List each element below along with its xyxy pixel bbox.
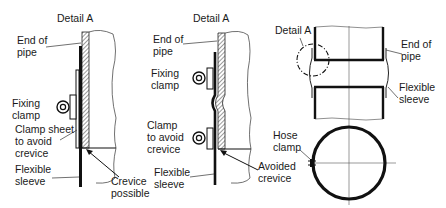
left-detail-panel: Detail A End of pipe Fixing clamp Clamp … <box>12 12 150 199</box>
svg-text:crevice: crevice <box>258 172 291 184</box>
svg-text:Detail A: Detail A <box>275 24 311 36</box>
pipe-wall <box>216 33 226 149</box>
pipe-break-line <box>89 30 116 148</box>
right-overview-panel: Detail A End of pipe Flexible sleeve Hos… <box>273 24 435 205</box>
svg-text:pipe: pipe <box>17 46 37 58</box>
pipe-sleeve-diagram: Detail A End of pipe Fixing clamp Clamp … <box>0 0 446 208</box>
svg-text:Flexible: Flexible <box>399 81 435 93</box>
flexible-sleeve <box>310 48 313 98</box>
svg-text:to avoid: to avoid <box>147 131 184 143</box>
crevice-clamp-body <box>207 128 213 149</box>
hose-clamp-icon <box>310 159 314 167</box>
svg-text:Fixing: Fixing <box>151 67 179 79</box>
svg-text:crevice: crevice <box>147 143 180 155</box>
svg-text:Clamp sheet: Clamp sheet <box>15 123 74 135</box>
svg-text:possible: possible <box>111 187 150 199</box>
svg-text:Avoided: Avoided <box>258 160 296 172</box>
svg-text:pipe: pipe <box>153 45 173 57</box>
svg-text:pipe: pipe <box>401 50 421 62</box>
svg-text:sleeve: sleeve <box>15 175 46 187</box>
svg-text:Hose: Hose <box>273 129 298 141</box>
svg-text:sleeve: sleeve <box>154 178 185 190</box>
svg-text:Flexible: Flexible <box>154 166 190 178</box>
pipe-wall <box>82 32 89 148</box>
middle-detail-title: Detail A <box>193 12 229 24</box>
svg-text:sleeve: sleeve <box>399 93 430 105</box>
svg-text:Flexible: Flexible <box>15 163 51 175</box>
avoided-crevice-arrow-icon <box>220 150 227 156</box>
svg-text:Fixing: Fixing <box>12 97 40 109</box>
svg-text:Crevice: Crevice <box>111 175 147 187</box>
svg-text:End of: End of <box>401 38 431 50</box>
svg-text:End of: End of <box>153 33 183 45</box>
svg-text:crevice: crevice <box>15 147 48 159</box>
fixing-clamp-body <box>70 95 76 119</box>
svg-text:to avoid: to avoid <box>15 135 52 147</box>
fixing-clamp-body <box>207 68 213 89</box>
svg-text:clamp: clamp <box>273 141 301 153</box>
svg-text:clamp: clamp <box>151 79 179 91</box>
svg-text:End of: End of <box>17 34 47 46</box>
svg-text:Clamp: Clamp <box>147 119 178 131</box>
svg-text:clamp: clamp <box>12 109 40 121</box>
middle-detail-panel: Detail A End of pipe Fixing clamp Clamp … <box>147 12 296 190</box>
left-detail-title: Detail A <box>57 12 93 24</box>
